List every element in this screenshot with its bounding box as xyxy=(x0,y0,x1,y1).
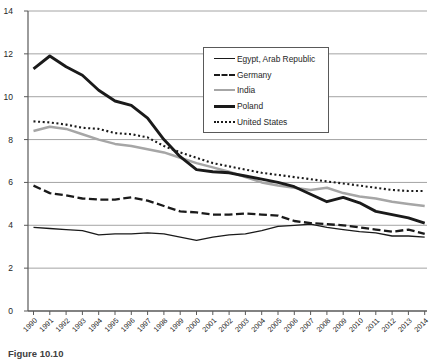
y-tick-label: 6 xyxy=(8,177,13,187)
legend-line-sample-icon xyxy=(214,74,235,76)
y-tick-label: 10 xyxy=(4,92,14,102)
legend-item: Germany xyxy=(214,67,328,83)
x-tick-label: 2007 xyxy=(298,316,316,334)
x-tick-label: 1995 xyxy=(103,316,121,334)
y-tick-label: 2 xyxy=(8,263,13,273)
x-tick-label: 2009 xyxy=(331,316,349,334)
x-tick-label: 1990 xyxy=(21,316,39,334)
legend-line-sample-icon xyxy=(214,89,235,91)
x-tick-label: 2013 xyxy=(396,316,414,334)
x-tick-label: 1998 xyxy=(151,316,169,334)
series-line-germany xyxy=(34,186,425,234)
figure-caption: Figure 10.10 xyxy=(8,348,63,359)
legend-item: United States xyxy=(214,114,328,130)
x-tick-label: 2008 xyxy=(314,316,332,334)
x-tick-label: 2011 xyxy=(364,316,381,333)
x-tick-label: 2003 xyxy=(233,316,251,334)
y-tick-label: 12 xyxy=(4,49,14,59)
x-tick-label: 1991 xyxy=(37,316,55,334)
x-tick-label: 1992 xyxy=(54,316,72,334)
y-tick-label: 14 xyxy=(4,6,14,16)
legend-label: Egypt, Arab Republic xyxy=(237,54,315,64)
legend-label: India xyxy=(237,85,255,95)
y-tick-label: 8 xyxy=(8,135,13,145)
x-tick-label: 1994 xyxy=(86,316,104,334)
legend-line-sample-icon xyxy=(214,58,235,59)
x-tick-label: 2000 xyxy=(184,316,202,334)
x-tick-label: 1993 xyxy=(70,316,88,334)
legend-label: Poland xyxy=(237,101,263,111)
legend-line-sample-icon xyxy=(214,121,235,123)
legend-line-sample-icon xyxy=(214,105,235,108)
x-tick-label: 1999 xyxy=(168,316,186,334)
x-tick-label: 2014 xyxy=(412,316,430,334)
chart-legend: Egypt, Arab RepublicGermanyIndiaPolandUn… xyxy=(203,47,329,133)
legend-item: Egypt, Arab Republic xyxy=(214,51,328,67)
y-tick-label: 4 xyxy=(8,220,13,230)
x-tick-label: 2001 xyxy=(200,316,218,334)
legend-label: Germany xyxy=(237,70,271,80)
series-line-india xyxy=(34,127,425,206)
x-tick-label: 2006 xyxy=(282,316,300,334)
series-line-egypt-arab-republic xyxy=(34,224,425,240)
x-tick-label: 1997 xyxy=(135,316,153,334)
x-tick-label: 2005 xyxy=(266,316,284,334)
x-tick-label: 2012 xyxy=(380,316,398,334)
x-tick-label: 2010 xyxy=(347,316,365,334)
legend-item: Poland xyxy=(214,98,328,114)
y-tick-label: 0 xyxy=(8,306,13,316)
legend-item: India xyxy=(214,83,328,99)
x-tick-label: 2002 xyxy=(217,316,235,334)
legend-label: United States xyxy=(237,117,287,127)
x-tick-label: 1996 xyxy=(119,316,137,334)
x-tick-label: 2004 xyxy=(249,316,267,334)
